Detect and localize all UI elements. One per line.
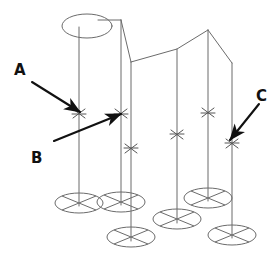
arrow-b-line (54, 114, 121, 141)
label-b: B (31, 149, 42, 167)
diagram-canvas: A B C (0, 0, 280, 258)
joint-cross-group (72, 108, 239, 153)
annotation-arrow-group (32, 82, 259, 141)
arrow-a-line (32, 82, 80, 112)
ridge-segment-2 (121, 20, 131, 62)
top-drum-ellipse (62, 14, 112, 38)
annotation-label-group: A B C (14, 61, 267, 167)
canopy-frame (62, 14, 232, 63)
ridge-segment-4 (208, 30, 232, 63)
label-c: C (256, 87, 267, 105)
arrow-c-line (230, 104, 259, 140)
label-a: A (14, 61, 26, 79)
line-drawing-svg: A B C (0, 0, 280, 258)
ridge-segment-3 (131, 30, 208, 62)
base-plate-group (55, 188, 256, 247)
